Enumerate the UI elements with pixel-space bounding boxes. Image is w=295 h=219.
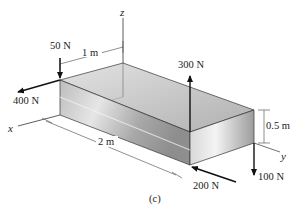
figure-caption: (c) xyxy=(149,193,161,205)
force-200n: 200 N xyxy=(192,167,236,191)
force-100n: 100 N xyxy=(254,143,284,182)
x-axis: x xyxy=(7,115,60,134)
force-100n-label: 100 N xyxy=(258,171,284,182)
y-axis: y xyxy=(254,143,286,162)
dimension-0-5m-label: 0.5 m xyxy=(266,120,290,131)
force-400n: 400 N xyxy=(13,80,60,106)
rigid-body-force-diagram: z x y 1 m 2 m 0.5 m xyxy=(0,0,295,219)
force-400n-label: 400 N xyxy=(13,95,39,106)
z-axis-label: z xyxy=(119,6,125,18)
dimension-1m-label: 1 m xyxy=(82,47,98,58)
force-300n-label: 300 N xyxy=(178,59,204,70)
force-50n: 50 N xyxy=(50,40,71,78)
force-200n-label: 200 N xyxy=(193,180,219,191)
dimension-0-5m: 0.5 m xyxy=(258,110,292,143)
y-axis-label: y xyxy=(280,150,286,162)
x-axis-label: x xyxy=(7,122,13,134)
force-50n-label: 50 N xyxy=(50,40,71,51)
dimension-2m-label: 2 m xyxy=(98,136,114,147)
